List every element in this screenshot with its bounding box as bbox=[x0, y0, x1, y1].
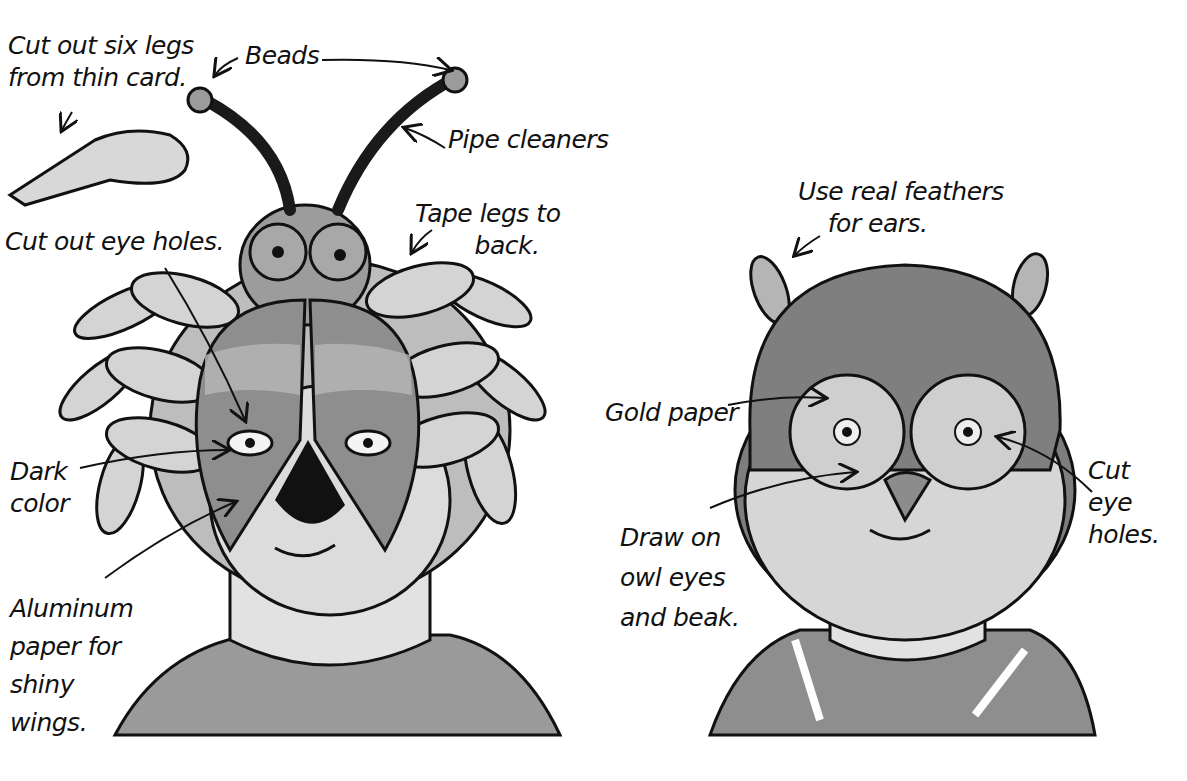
label-cut-six-legs: Cut out six legs from thin card. bbox=[8, 30, 194, 94]
label-cut-eye-holes: Cut out eye holes. bbox=[5, 226, 224, 258]
leg-card-sample bbox=[10, 131, 188, 205]
label-draw-owl-eyes: Draw on owl eyes and beak. bbox=[620, 518, 739, 638]
illustration bbox=[0, 0, 1187, 781]
label-gold-paper: Gold paper bbox=[605, 397, 738, 429]
label-dark-color: Dark color bbox=[10, 456, 69, 520]
label-cut-eye-holes-owl: Cut eye holes. bbox=[1088, 455, 1159, 551]
owl-mask-figure bbox=[710, 250, 1095, 735]
label-tape-legs: Tape legs to back. bbox=[415, 198, 560, 262]
label-real-feathers: Use real feathers for ears. bbox=[798, 176, 1004, 240]
bead-right bbox=[443, 68, 467, 92]
label-aluminum-paper: Aluminum paper for shiny wings. bbox=[10, 590, 133, 742]
label-pipe-cleaners: Pipe cleaners bbox=[448, 124, 609, 156]
label-beads: Beads bbox=[245, 40, 319, 72]
